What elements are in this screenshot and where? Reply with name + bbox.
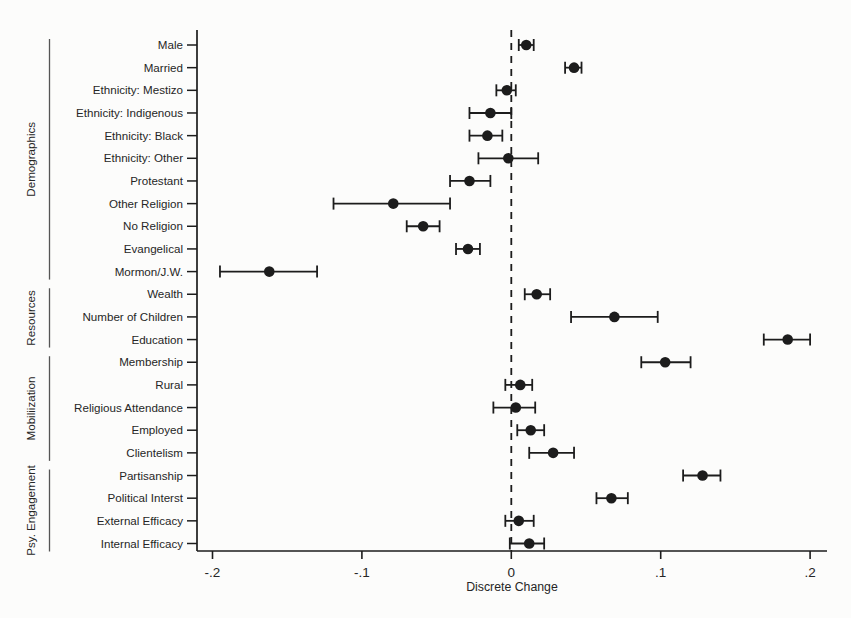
group-label: Mobiliization	[24, 377, 37, 441]
row-label: Political Interst	[108, 491, 184, 504]
point-estimate-dot	[782, 334, 793, 345]
row-label: Education	[131, 333, 183, 346]
point-estimate-dot	[510, 402, 521, 413]
point-estimate-dot	[531, 289, 542, 300]
row-label: Employed	[131, 423, 183, 436]
x-axis-label: Discrete Change	[466, 580, 558, 594]
row-label: Ethnicity: Black	[104, 129, 183, 142]
x-tick-label: -.1	[354, 565, 370, 580]
point-estimate-dot	[524, 538, 535, 549]
row-label: Number of Children	[82, 310, 183, 323]
point-estimate-dot	[502, 85, 513, 96]
row-label: Mormon/J.W.	[115, 265, 183, 278]
group-label: Resources	[24, 290, 37, 346]
x-tick-label: 0	[508, 565, 516, 580]
row-label: No Religion	[123, 219, 183, 232]
row-label: Male	[158, 38, 183, 51]
row-label: Membership	[119, 355, 183, 368]
point-estimate-dot	[463, 244, 474, 255]
point-estimate-dot	[418, 221, 429, 232]
coefficient-plot-figure: -.2-.10.1.2MaleMarriedEthnicity: Mestizo…	[0, 0, 851, 618]
row-label: Wealth	[147, 287, 183, 300]
row-label: Married	[144, 61, 183, 74]
point-estimate-dot	[521, 40, 532, 51]
row-label: Ethnicity: Mestizo	[93, 83, 183, 96]
x-tick-label: .2	[804, 565, 815, 580]
point-estimate-dot	[503, 153, 514, 164]
group-label: Demographics	[24, 122, 37, 197]
chart-marks-layer: -.2-.10.1.2MaleMarriedEthnicity: Mestizo…	[24, 30, 827, 580]
point-estimate-dot	[548, 448, 559, 459]
row-label: Clientelism	[126, 446, 183, 459]
point-estimate-dot	[660, 357, 671, 368]
point-estimate-dot	[697, 470, 708, 481]
row-label: Ethnicity: Indigenous	[76, 106, 183, 119]
point-estimate-dot	[464, 176, 475, 187]
row-label: Rural	[155, 378, 183, 391]
point-estimate-dot	[525, 425, 536, 436]
point-estimate-dot	[482, 130, 493, 141]
row-label: Religious Attendance	[74, 401, 183, 414]
point-estimate-dot	[485, 108, 496, 119]
point-estimate-dot	[609, 312, 620, 323]
group-label: Psy. Engagement	[24, 464, 37, 555]
row-label: Internal Efficacy	[101, 537, 183, 550]
point-estimate-dot	[606, 493, 617, 504]
point-estimate-dot	[569, 62, 580, 73]
row-label: Evangelical	[124, 242, 183, 255]
x-tick-label: .1	[655, 565, 666, 580]
row-label: Partisanship	[119, 469, 183, 482]
point-estimate-dot	[515, 380, 526, 391]
row-label: Protestant	[130, 174, 184, 187]
x-tick-label: -.2	[205, 565, 221, 580]
dot-whisker-chart: -.2-.10.1.2MaleMarriedEthnicity: Mestizo…	[0, 0, 851, 618]
row-label: Other Religion	[109, 197, 183, 210]
row-label: Ethnicity: Other	[104, 151, 183, 164]
point-estimate-dot	[388, 198, 399, 209]
point-estimate-dot	[264, 266, 275, 277]
row-label: External Efficacy	[97, 514, 183, 527]
point-estimate-dot	[513, 516, 524, 527]
